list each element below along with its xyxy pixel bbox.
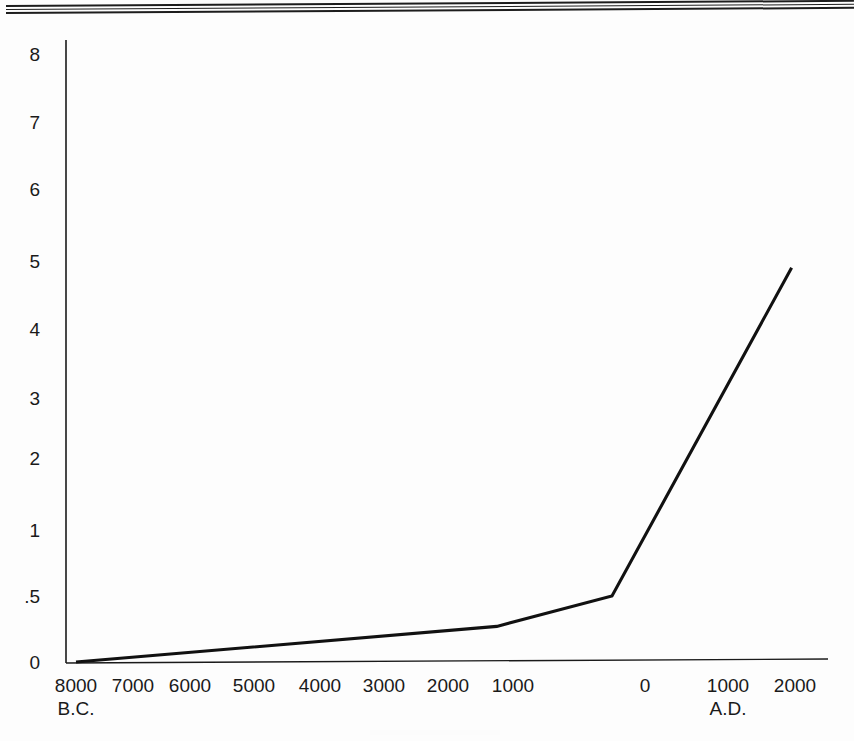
x-tick-label-year-zero: 0 xyxy=(605,676,685,695)
y-tick-label-1: 1 xyxy=(0,521,40,540)
population-curve xyxy=(76,268,792,662)
x-tick-label-2000-ad: 2000 xyxy=(755,676,835,695)
x-axis-line xyxy=(66,659,828,663)
y-tick-label-4: 4 xyxy=(0,320,40,339)
y-tick-label-2: 2 xyxy=(0,449,40,468)
era-label-ad: A.D. xyxy=(688,699,768,718)
line-chart: 8 7 6 5 4 3 2 1 .5 0 8000 7000 6000 5000… xyxy=(0,0,854,741)
era-label-bc: B.C. xyxy=(36,699,116,718)
y-tick-label-6: 6 xyxy=(0,180,40,199)
x-tick-label-1000-bc: 1000 xyxy=(473,676,553,695)
scanned-chart-page: 8 7 6 5 4 3 2 1 .5 0 8000 7000 6000 5000… xyxy=(0,0,854,741)
chart-canvas xyxy=(0,0,854,741)
y-tick-label-3: 3 xyxy=(0,389,40,408)
scan-noise-artifact xyxy=(370,730,500,735)
y-tick-label-point-5: .5 xyxy=(0,587,40,606)
y-tick-label-5: 5 xyxy=(0,252,40,271)
y-tick-label-0: 0 xyxy=(0,653,40,672)
y-tick-label-7: 7 xyxy=(0,113,40,132)
y-tick-label-8: 8 xyxy=(0,45,40,64)
